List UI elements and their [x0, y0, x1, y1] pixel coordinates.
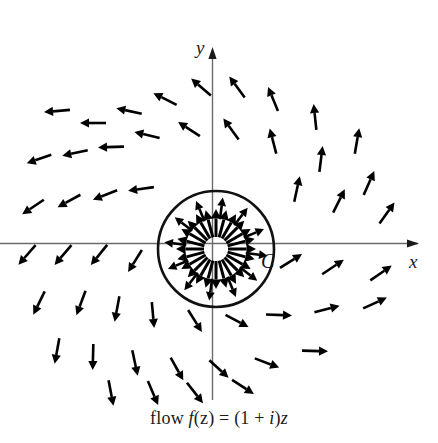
arrow-shaft	[229, 126, 239, 140]
arrow-shaft	[143, 134, 160, 138]
arrow-shaft	[255, 358, 271, 364]
arrow-shaft	[65, 195, 80, 203]
arrow-head	[112, 312, 121, 322]
arrow-head	[149, 319, 158, 328]
flow-arrow-outside-13	[178, 122, 200, 136]
arrow-shaft	[246, 253, 259, 255]
arrow-shaft	[235, 84, 245, 98]
arrow-shaft	[132, 350, 136, 367]
arrow-shaft	[60, 245, 71, 258]
arrow-shaft	[96, 245, 107, 258]
flow-arrow-outside-2	[116, 106, 141, 115]
flow-arrow-outside-31	[370, 266, 391, 281]
arrow-head	[206, 292, 215, 301]
arrow-shaft	[71, 150, 88, 154]
flow-arrow-outside-44	[171, 358, 184, 381]
arrow-shaft	[294, 185, 298, 202]
arrow-shaft	[53, 110, 70, 111]
arrow-head	[330, 304, 340, 313]
arrow-head	[353, 128, 362, 138]
flow-arrow-outside-26	[55, 245, 72, 265]
arrow-shaft	[161, 97, 176, 105]
flow-arrow-outside-22	[293, 176, 302, 201]
caption-word: flow	[150, 408, 184, 428]
arrow-head	[62, 149, 72, 158]
arrow-shaft	[101, 190, 117, 196]
arrow-shaft	[30, 200, 44, 209]
flow-arrow-outside-14	[223, 118, 238, 139]
flow-arrow-outside-16	[317, 146, 326, 172]
flow-arrow-outside-20	[93, 190, 117, 200]
arrow-shaft	[363, 301, 378, 308]
flow-figure: y x C flow f(z) = (1 + i)z	[0, 0, 438, 443]
flow-arrow-outside-1	[80, 118, 106, 127]
caption-variable-z: z	[281, 408, 288, 428]
arrow-head	[293, 176, 302, 186]
y-axis-arrowhead	[208, 47, 216, 59]
flow-arrow-outside-51	[232, 380, 254, 394]
flow-arrow-outside-8	[353, 128, 362, 154]
arrow-shaft	[107, 147, 124, 148]
arrow-shaft	[171, 358, 179, 373]
flow-arrow-outside-17	[364, 171, 375, 195]
arrow-head	[131, 366, 140, 376]
arrow-head	[116, 106, 126, 115]
arrow-shaft	[266, 314, 283, 315]
arrow-head	[107, 396, 116, 406]
arrow-head	[52, 354, 61, 364]
arrow-shaft	[198, 84, 211, 95]
arrow-head	[268, 128, 277, 138]
caption-equals: =	[219, 408, 229, 428]
contour-label-c: C	[261, 251, 274, 271]
arrow-head	[283, 311, 292, 320]
arrow-shaft	[186, 127, 200, 136]
flow-arrow-outside-15	[268, 128, 277, 153]
arrow-head	[128, 185, 138, 194]
flow-arrow-outside-42	[88, 344, 97, 370]
arrow-shaft	[137, 187, 154, 189]
flow-arrow-outside-43	[131, 350, 140, 375]
flow-arrow-outside-25	[18, 245, 35, 265]
arrow-shaft	[152, 302, 154, 319]
figure-caption: flow f(z) = (1 + i)z	[0, 408, 438, 429]
flow-arrow-outside-3	[153, 93, 176, 105]
x-axis-label: x	[409, 252, 417, 271]
arrow-shaft	[116, 296, 119, 313]
caption-expr-open: (1 +	[234, 408, 264, 428]
arrow-head	[317, 146, 326, 156]
flow-arrow-outside-29	[280, 254, 302, 268]
arrow-shaft	[209, 360, 222, 371]
arrow-head	[319, 347, 328, 356]
flow-arrow-outside-37	[226, 315, 249, 327]
arrow-head	[44, 107, 53, 116]
flow-arrow-outside-50	[187, 383, 203, 403]
flow-arrow-outside-35	[149, 302, 158, 328]
flow-arrow-outside-32	[33, 291, 45, 314]
flow-arrow-outside-48	[107, 380, 116, 406]
arrow-shaft	[280, 259, 294, 268]
flow-arrow-outside-49	[148, 381, 159, 405]
flow-arrow-outside-4	[191, 79, 211, 96]
y-axis-label: y	[196, 38, 204, 57]
arrow-shaft	[272, 137, 276, 153]
flow-arrow-outside-23	[333, 189, 345, 212]
arrow-head	[217, 197, 226, 206]
caption-of-z: (z)	[194, 408, 215, 428]
arrow-shaft	[210, 279, 212, 292]
arrow-shaft	[188, 310, 197, 324]
flow-arrow-outside-38	[266, 311, 292, 320]
arrow-shaft	[314, 308, 330, 312]
flow-arrow-outside-18	[22, 200, 44, 214]
arrow-shaft	[333, 197, 341, 212]
arrow-shaft	[380, 210, 390, 224]
arrow-shaft	[220, 206, 222, 219]
arrow-shaft	[133, 250, 142, 264]
flow-arrow-outside-12	[134, 130, 159, 139]
flow-arrow-outside-28	[128, 250, 142, 272]
flow-arrow-outside-40	[363, 297, 387, 308]
flow-arrow-outside-30	[322, 260, 344, 274]
flow-arrow-outside-21	[128, 185, 154, 194]
flow-arrow-outside-5	[229, 77, 244, 98]
arrow-shaft	[37, 291, 44, 306]
arrow-shaft	[56, 338, 59, 355]
